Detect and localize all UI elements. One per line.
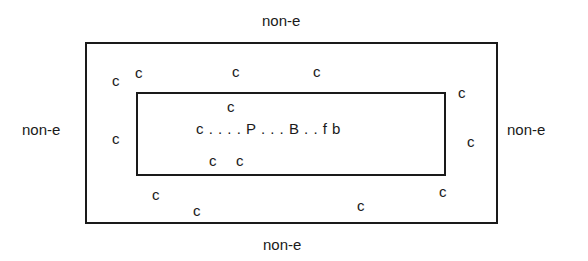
outer-consonant-c: c [135,65,143,80]
label-right-non-e: non-e [507,122,545,137]
outer-consonant-c: c [458,85,466,100]
outer-consonant-c: c [357,198,365,213]
outer-consonant-c: c [112,131,120,146]
inner-consonant-c: c [209,153,217,168]
outer-consonant-c: c [193,203,201,218]
outer-consonant-c: c [152,187,160,202]
outer-consonant-c: c [467,134,475,149]
outer-consonant-c: c [232,64,240,79]
outer-consonant-c: c [439,184,447,199]
inner-consonant-c: c [236,153,244,168]
center-sequence: c . . . . P . . . B . . f b [196,121,341,136]
outer-consonant-c: c [112,73,120,88]
label-top-non-e: non-e [262,13,300,28]
label-left-non-e: non-e [22,122,60,137]
inner-consonant-c: c [227,99,235,114]
label-bottom-non-e: non-e [263,237,301,252]
outer-consonant-c: c [313,64,321,79]
